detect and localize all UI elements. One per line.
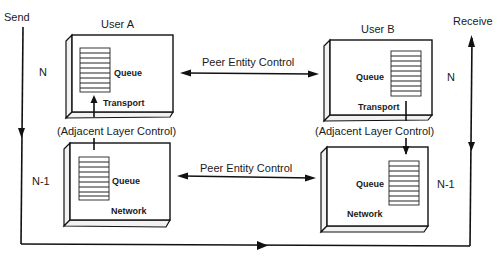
peer-connector-line [186, 73, 314, 74]
adjacent-layer-control-label: (Adjacent Layer Control) [315, 125, 434, 137]
send-label: Send [4, 11, 30, 23]
user-b-label: User B [361, 23, 395, 35]
layer-n-label-left: N [39, 66, 47, 78]
box-user-a-network: Queue Network [64, 143, 170, 227]
transport-label: Transport [358, 102, 400, 112]
peer-connector-line [183, 176, 312, 178]
box-user-b-network: Queue Network [321, 147, 428, 232]
layer-n-1-label-right: N-1 [437, 178, 455, 190]
arrow-left-icon [177, 173, 188, 180]
user-a-label: User A [101, 18, 135, 30]
adjacent-layer-control-label: (Adjacent Layer Control) [57, 125, 176, 137]
send-arrow-down-icon [18, 128, 25, 138]
peer-entity-control-upper: Peer Entity Control [180, 56, 319, 78]
queue-stack-icon [79, 157, 109, 200]
layered-protocol-diagram: Send Receive N N N-1 N-1 User A User B [0, 0, 504, 264]
receive-arrow-up-icon [468, 35, 475, 47]
receive-label: Receive [453, 15, 493, 27]
queue-stack-icon [391, 51, 421, 96]
queue-label: Queue [356, 179, 384, 189]
queue-stack-icon [80, 48, 110, 92]
network-label: Network [347, 209, 384, 219]
peer-entity-control-lower: Peer Entity Control [177, 162, 316, 182]
flow-arrow-right-icon [257, 241, 268, 250]
peer-entity-control-label: Peer Entity Control [200, 162, 292, 174]
receive-arrow-down-icon [468, 142, 475, 151]
arrow-left-icon [180, 70, 191, 77]
network-label: Network [111, 206, 148, 216]
queue-label: Queue [356, 72, 384, 82]
peer-entity-control-label: Peer Entity Control [202, 56, 294, 68]
layer-n-label-right: N [447, 71, 455, 83]
transport-label: Transport [103, 98, 145, 108]
bottom-flow-line [21, 244, 470, 246]
queue-label: Queue [114, 68, 142, 78]
box-user-a-transport: Queue Transport [66, 35, 173, 118]
box-user-b-transport: Queue Transport [324, 40, 432, 121]
layer-n-1-label-left: N-1 [32, 175, 50, 187]
arrow-right-icon [305, 175, 316, 182]
arrow-right-icon [308, 71, 319, 78]
queue-label: Queue [112, 176, 140, 186]
queue-stack-icon [389, 161, 419, 205]
